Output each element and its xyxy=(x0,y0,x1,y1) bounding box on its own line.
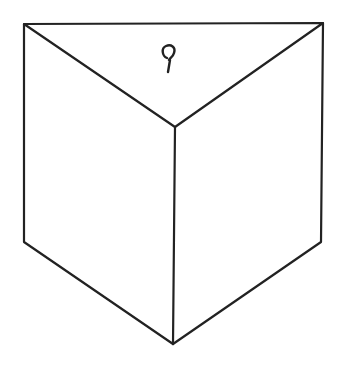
left-face-edges xyxy=(24,24,175,344)
right-face-edges xyxy=(173,23,323,344)
prism-diagram xyxy=(0,0,346,366)
top-face xyxy=(24,23,323,127)
hook-loop-icon xyxy=(163,45,175,72)
